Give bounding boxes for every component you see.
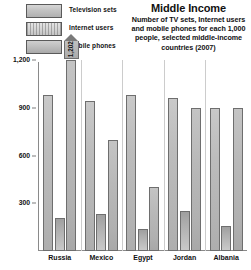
bar-egypt-mobile-phones <box>149 187 159 251</box>
bar-russia-internet-users <box>55 218 65 251</box>
x-axis-label-albania: Albania <box>205 254 247 261</box>
legend-item-label: Mobile phones <box>69 43 116 50</box>
bar-jordan-television-sets <box>168 98 178 251</box>
y-axis-labels: 3006009001,200 <box>0 60 38 255</box>
bar-group-egypt <box>122 60 164 251</box>
bar-group-mexico <box>81 60 123 251</box>
legend-item-internet-users: Internet users <box>26 21 130 36</box>
x-axis-label-mexico: Mexico <box>81 254 123 261</box>
bar-russia-television-sets <box>43 95 53 251</box>
y-axis-tick-mark <box>32 203 36 204</box>
legend-item-label: Internet users <box>69 25 113 32</box>
x-axis-labels: RussiaMexicoEgyptJordanAlbania <box>39 252 247 268</box>
bar-egypt-television-sets <box>126 95 136 251</box>
bar-jordan-internet-users <box>180 211 190 251</box>
chart-figure: Television sets Internet users Mobile ph… <box>0 0 251 270</box>
bar-mexico-television-sets <box>85 101 95 251</box>
y-axis-tick-label: 900 <box>19 104 30 111</box>
y-axis-tick-mark <box>32 155 36 156</box>
bar-group-jordan <box>164 60 206 251</box>
bar-group-russia: 1,202 <box>39 60 81 251</box>
bar-albania-television-sets <box>210 108 220 251</box>
chart-header: Television sets Internet users Mobile ph… <box>0 0 251 62</box>
legend-item-mobile-phones: Mobile phones <box>26 39 130 54</box>
y-axis-tick-label: 600 <box>19 152 30 159</box>
bar-mexico-internet-users <box>96 214 106 251</box>
bar-russia-mobile-phones <box>66 60 76 251</box>
y-axis-tick-label: 1,200 <box>13 57 30 64</box>
bar-egypt-internet-users <box>138 229 148 251</box>
legend-item-label: Television sets <box>69 7 117 14</box>
chart-title-block: Middle Income Number of TV sets, Interne… <box>128 2 249 52</box>
tv-swatch-icon <box>26 4 62 18</box>
y-axis-tick-mark <box>32 107 36 108</box>
y-axis-tick-label: 300 <box>19 200 30 207</box>
bar-jordan-mobile-phones <box>191 108 201 251</box>
mobile-swatch-icon <box>26 40 62 54</box>
x-axis-label-russia: Russia <box>39 254 81 261</box>
y-axis-tick-mark <box>32 60 36 61</box>
chart-subtitle: Number of TV sets, Internet users and mo… <box>128 15 249 52</box>
chart-plot-area: 3006009001,200 1,202 RussiaMexicoEgyptJo… <box>0 60 251 270</box>
bar-albania-internet-users <box>221 226 231 251</box>
bar-group-albania <box>205 60 247 251</box>
internet-swatch-icon <box>26 22 62 36</box>
legend-item-television-sets: Television sets <box>26 3 130 18</box>
x-axis-label-jordan: Jordan <box>164 254 206 261</box>
bar-mexico-mobile-phones <box>108 140 118 251</box>
bar-albania-mobile-phones <box>233 108 243 251</box>
chart-title: Middle Income <box>128 2 249 14</box>
x-axis-label-egypt: Egypt <box>122 254 164 261</box>
bars-container: 1,202 <box>39 60 247 251</box>
chart-legend: Television sets Internet users Mobile ph… <box>26 3 130 57</box>
